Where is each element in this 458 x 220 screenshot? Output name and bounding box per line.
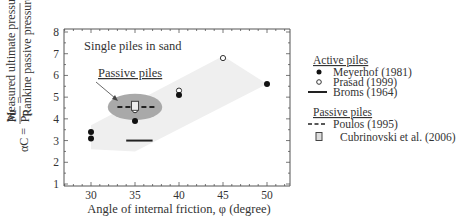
y-tick-label: 3 bbox=[53, 135, 59, 147]
x-tick-label: 40 bbox=[173, 189, 185, 201]
point-meyerhof bbox=[176, 92, 182, 98]
y-tick-label: 4 bbox=[53, 113, 59, 125]
legend: Active pilesPassive pilesMeyerhof (1981)… bbox=[308, 54, 456, 144]
y-label-lhs: αC = bbox=[17, 128, 31, 152]
point-meyerhof bbox=[132, 118, 138, 124]
annotation-passive-piles: Passive piles bbox=[98, 66, 162, 80]
y-axis-label: αC = Pu Pp = Measured ultimate pressure … bbox=[4, 0, 34, 152]
x-tick-label: 45 bbox=[217, 189, 229, 201]
y-tick-label: 2 bbox=[53, 156, 59, 168]
y-tick-label: 1 bbox=[53, 178, 59, 190]
annotation-title: Single piles in sand bbox=[84, 39, 182, 53]
x-axis-label: Angle of internal friction, φ (degree) bbox=[87, 202, 271, 216]
legend-label: Cubrinovski et al. (2006) bbox=[340, 131, 456, 144]
point-meyerhof bbox=[88, 135, 94, 141]
point-meyerhof bbox=[88, 129, 94, 135]
chart: αC = Pu Pp = Measured ultimate pressure … bbox=[0, 0, 458, 220]
point-prasad bbox=[220, 55, 225, 60]
x-tick-label: 30 bbox=[85, 189, 97, 201]
x-tick-label: 35 bbox=[129, 189, 141, 201]
legend-entry-broms: Broms (1964) bbox=[308, 86, 397, 99]
point-cubrinovski bbox=[132, 101, 139, 110]
legend-entry-cubrinovski: Cubrinovski et al. (2006) bbox=[316, 131, 456, 144]
legend-label: Broms (1964) bbox=[333, 86, 397, 99]
x-tick-label: 50 bbox=[261, 189, 273, 201]
legend-marker-open-circle bbox=[317, 80, 322, 85]
annotation-arrow-line bbox=[96, 82, 115, 98]
y-label-frac2-den: Rankine passive pressure bbox=[20, 0, 34, 117]
y-tick-label: 5 bbox=[53, 91, 59, 103]
point-meyerhof bbox=[264, 81, 270, 87]
legend-marker-open-square bbox=[316, 133, 322, 141]
y-tick-label: 7 bbox=[53, 48, 59, 60]
legend-entry-poulos: Poulos (1995) bbox=[308, 118, 398, 131]
legend-label: Poulos (1995) bbox=[333, 118, 398, 131]
y-label-frac2-num: Measured ultimate pressure bbox=[4, 0, 18, 122]
legend-marker-filled-circle bbox=[317, 70, 322, 75]
y-tick-label: 6 bbox=[53, 69, 59, 81]
y-tick-label: 8 bbox=[53, 26, 59, 38]
